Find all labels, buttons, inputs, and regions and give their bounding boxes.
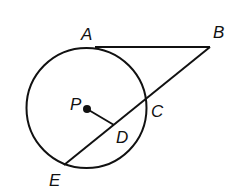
- geometry-diagram: A B C D E P: [0, 0, 246, 195]
- segment-pd: [87, 109, 114, 125]
- label-a: A: [80, 25, 92, 44]
- label-d: D: [116, 128, 128, 147]
- center-point-p: [83, 105, 91, 113]
- label-c: C: [151, 102, 164, 121]
- label-e: E: [49, 171, 61, 190]
- label-b: B: [213, 23, 224, 42]
- label-p: P: [70, 95, 82, 114]
